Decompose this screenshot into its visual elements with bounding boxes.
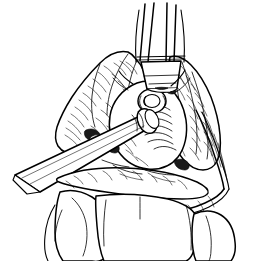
- illustration-canvas: Surgical exposure line illustration Oper…: [0, 0, 255, 261]
- surgical-line-drawing: [0, 0, 255, 261]
